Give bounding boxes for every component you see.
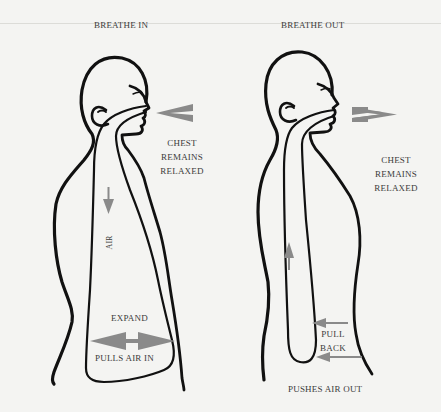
air-down-arrow-icon <box>103 187 114 214</box>
breathing-diagram <box>0 0 441 412</box>
expand-double-arrow-icon <box>90 332 175 350</box>
breathe-out-title: BREATHE OUT <box>281 18 344 32</box>
pulls-air-in-label: PULLS AIR IN <box>95 351 154 365</box>
pushes-air-out-label: PUSHES AIR OUT <box>288 382 362 396</box>
breathe-in-chest-note: CHEST REMAINS RELAXED <box>156 136 208 178</box>
exhale-arrow-icon <box>352 107 397 122</box>
breathe-in-title: BREATHE IN <box>94 18 148 32</box>
breathe-out-figure <box>258 52 372 380</box>
inhale-arrow-icon <box>156 104 193 122</box>
air-label: AIR <box>105 236 114 250</box>
breathe-out-chest-note: CHEST REMAINS RELAXED <box>370 153 422 195</box>
expand-label: EXPAND <box>111 311 148 325</box>
pull-back-label: PULL BACK <box>318 327 348 355</box>
